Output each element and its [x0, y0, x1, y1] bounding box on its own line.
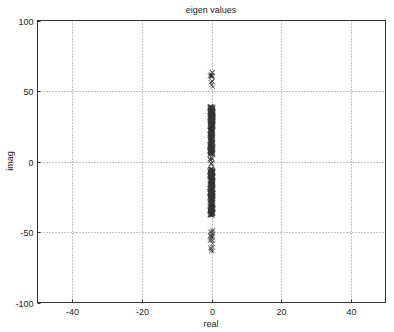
x-tick-label: 0 [210, 307, 215, 317]
eigenvalue-markers [208, 70, 216, 253]
y-tick-label: 50 [23, 87, 33, 97]
eigenvalue-scatter-plot: -40-2002040 -100-50050100 eigen values r… [0, 0, 394, 332]
chart-title: eigen values [186, 5, 237, 15]
x-tick-label: 40 [346, 307, 356, 317]
y-tick-label: -100 [15, 299, 33, 309]
x-axis-label: real [203, 319, 218, 329]
y-axis-ticks: -100-50050100 [15, 17, 40, 309]
y-tick-label: 0 [28, 158, 33, 168]
x-tick-label: 20 [276, 307, 286, 317]
x-tick-label: -40 [66, 307, 79, 317]
eigenvalue-marker [210, 79, 215, 84]
y-tick-label: -50 [20, 228, 33, 238]
y-axis-label: imag [5, 151, 15, 171]
x-tick-label: -20 [136, 307, 149, 317]
y-tick-label: 100 [18, 17, 33, 27]
